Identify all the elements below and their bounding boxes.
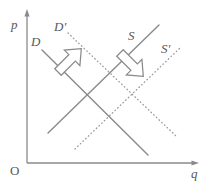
diagram-canvas: p q O D D' S S' — [0, 0, 211, 186]
supply-original-label: S — [128, 29, 135, 42]
demand-shifted-label: D' — [54, 20, 66, 33]
demand-original-label: D — [31, 35, 40, 48]
y-axis-arrowhead — [24, 9, 29, 17]
demand-shift-arrow — [50, 41, 89, 80]
demand-shifted-curve — [68, 33, 176, 136]
axes-group — [24, 9, 199, 166]
origin-label: O — [10, 164, 19, 177]
supply-shifted-label: S' — [161, 42, 170, 55]
supply-original-curve — [48, 25, 159, 133]
y-axis-label: p — [11, 18, 18, 31]
x-axis-arrowhead — [192, 160, 200, 165]
x-axis-label: q — [191, 167, 198, 180]
supply-demand-figure — [0, 0, 211, 186]
